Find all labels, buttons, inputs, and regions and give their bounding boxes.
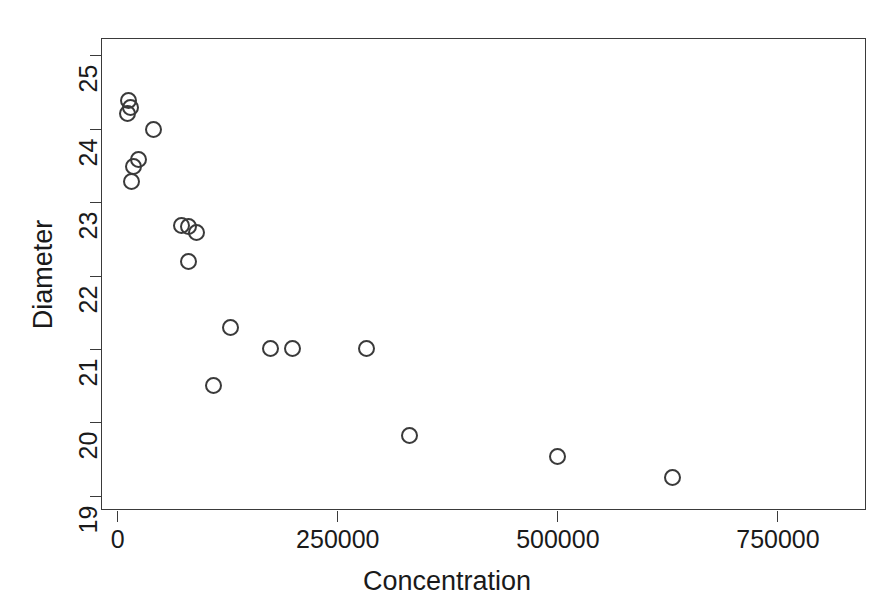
x-tick-500000 xyxy=(557,511,558,522)
x-tick-750000 xyxy=(777,511,778,522)
data-point xyxy=(262,340,279,357)
x-tick-label-250000: 250000 xyxy=(248,527,428,552)
y-tick-label-20: 20 xyxy=(76,423,101,469)
data-point xyxy=(123,173,140,190)
x-tick-250000 xyxy=(337,511,338,522)
data-point xyxy=(205,377,222,394)
plot-panel xyxy=(101,38,866,510)
x-tick-label-500000: 500000 xyxy=(468,527,648,552)
y-tick-label-22: 22 xyxy=(76,276,101,322)
data-point xyxy=(119,105,136,122)
x-tick-0 xyxy=(117,511,118,522)
y-tick-label-21: 21 xyxy=(76,349,101,395)
y-axis-title: Diameter xyxy=(28,175,59,375)
y-tick-label-23: 23 xyxy=(76,203,101,249)
data-point xyxy=(664,469,681,486)
data-point xyxy=(180,253,197,270)
data-point xyxy=(284,340,301,357)
y-tick-label-25: 25 xyxy=(76,56,101,102)
scatter-chart-figure: Diameter Concentration 19202122232425 02… xyxy=(0,0,894,611)
x-axis-title: Concentration xyxy=(0,566,894,597)
data-point xyxy=(401,427,418,444)
y-tick-label-24: 24 xyxy=(76,129,101,175)
x-tick-label-750000: 750000 xyxy=(688,527,868,552)
x-tick-label-0: 0 xyxy=(28,527,208,552)
